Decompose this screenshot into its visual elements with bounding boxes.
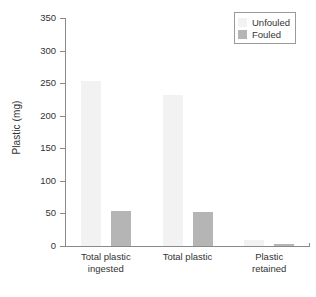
y-tick: 350 <box>60 18 65 19</box>
y-axis-label: Plastic (mg) <box>11 73 22 183</box>
legend-item-unfouled: Unfouled <box>238 16 290 28</box>
bar-fouled-0 <box>111 211 131 246</box>
y-tick-label: 50 <box>45 207 56 218</box>
plot-area: 050100150200250300350 Total plastic inge… <box>65 18 310 246</box>
category-label-2: Plastic retained <box>228 251 310 274</box>
legend-swatch-unfouled <box>238 18 247 27</box>
y-tick: 200 <box>60 116 65 117</box>
y-tick: 0 <box>60 246 65 247</box>
y-tick: 100 <box>60 181 65 182</box>
y-axis-line <box>65 18 66 246</box>
y-tick: 250 <box>60 83 65 84</box>
bar-unfouled-2 <box>244 240 264 247</box>
y-tick-label: 0 <box>51 240 56 251</box>
y-tick-label: 350 <box>40 12 56 23</box>
category-label-1: Total plastic <box>147 251 229 263</box>
bar-chart-figure: Plastic (mg) 050100150200250300350 Total… <box>0 0 316 297</box>
bar-fouled-2 <box>274 244 294 246</box>
legend-swatch-fouled <box>238 30 247 39</box>
x-axis-line <box>65 246 310 247</box>
legend-label-unfouled: Unfouled <box>252 17 290 28</box>
legend-item-fouled: Fouled <box>238 28 290 40</box>
chart-legend: UnfouledFouled <box>234 12 296 44</box>
y-tick: 300 <box>60 51 65 52</box>
y-tick-label: 100 <box>40 175 56 186</box>
y-tick: 50 <box>60 213 65 214</box>
bar-unfouled-1 <box>163 95 183 246</box>
x-axis-left-cap <box>65 243 66 247</box>
y-tick-label: 150 <box>40 142 56 153</box>
category-label-0: Total plastic ingested <box>65 251 147 274</box>
x-axis-right-cap <box>309 243 310 247</box>
bar-fouled-1 <box>193 212 213 246</box>
y-tick-label: 200 <box>40 110 56 121</box>
legend-label-fouled: Fouled <box>252 29 281 40</box>
bar-unfouled-0 <box>81 81 101 246</box>
y-tick-label: 300 <box>40 45 56 56</box>
y-tick: 150 <box>60 148 65 149</box>
y-tick-label: 250 <box>40 77 56 88</box>
